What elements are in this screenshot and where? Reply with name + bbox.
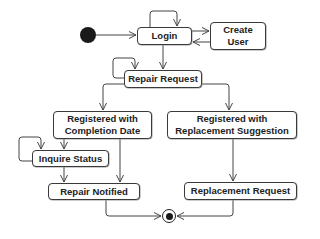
node-registered-completion-date[interactable]: Registered with Completion Date [53,111,152,139]
node-label-line-2: User [227,36,248,48]
final-node-dot [166,213,173,220]
node-label-line-2: Completion Date [65,125,140,137]
node-label: Repair Request [128,73,198,85]
edge-replacement-request-final [177,200,233,216]
node-label-line-1: Registered with [197,113,268,125]
node-label-line-1: Create [223,24,253,36]
node-repair-notified[interactable]: Repair Notified [48,183,140,200]
node-label: Repair Notified [60,186,128,198]
node-inquire-status[interactable]: Inquire Status [32,150,109,167]
node-label: Login [152,30,178,42]
node-label: Replacement Request [191,185,290,197]
node-label: Inquire Status [39,153,102,165]
node-label-line-2: Replacement Suggestion [175,125,289,137]
edge-login-self-loop [150,11,177,27]
node-label-line-1: Registered with [67,113,138,125]
node-registered-replacement-suggestion[interactable]: Registered with Replacement Suggestion [167,111,297,139]
edge-repair-notified-final [106,200,161,216]
node-create-user[interactable]: Create User [210,22,266,50]
edge-repair-request-reg-completion [103,84,124,110]
final-node [162,209,176,223]
node-repair-request[interactable]: Repair Request [124,70,202,88]
initial-node [80,27,96,43]
node-replacement-request[interactable]: Replacement Request [184,182,297,200]
edge-repair-request-reg-replacement [202,84,229,110]
node-login[interactable]: Login [137,27,192,45]
